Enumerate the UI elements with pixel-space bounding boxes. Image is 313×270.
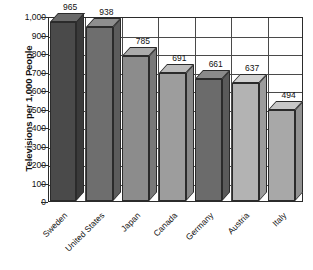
bar-side-face [295,101,303,201]
bar-value-label: 965 [57,3,84,12]
bar-front-face [86,27,113,201]
bar-side-face [222,70,230,201]
bar-front-face [50,22,77,201]
bar-chart: Televisions per 1,000 People 1,000900800… [0,0,313,270]
y-axis-tick-mark [41,128,48,129]
bar-side-face [186,64,194,201]
bar-front-face [159,73,186,201]
y-axis-tick-label: 800 [4,50,46,58]
plot-area [48,17,303,202]
y-axis-tick-label: 200 [4,161,46,169]
y-axis-tick-label: 100 [4,180,46,188]
bar-value-label: 494 [275,91,302,100]
bar-front-face [195,79,222,201]
bar [50,22,77,201]
y-axis-tick-label: 900 [4,32,46,40]
y-axis-tick-mark [41,73,48,74]
bar [268,110,295,201]
y-axis-tick-label: 600 [4,87,46,95]
y-axis-tick-mark [41,202,48,203]
y-axis-tick-mark [41,17,48,18]
y-axis-tick-mark [41,54,48,55]
bar-value-label: 661 [202,60,229,69]
y-axis-tick-mark [41,165,48,166]
bar-value-label: 637 [239,64,266,73]
bar-side-face [259,74,267,201]
bar-front-face [122,56,149,201]
bar-side-face [76,14,84,201]
bar [232,83,259,201]
y-axis-tick-label: 0 [4,198,46,206]
y-axis-tick-mark [41,36,48,37]
y-axis-tick-label: 1,000 [4,13,46,21]
bar [159,73,186,201]
bar-value-label: 938 [93,8,120,17]
bar [195,79,222,201]
y-axis-tick-label: 700 [4,69,46,77]
bar-side-face [113,19,121,201]
y-axis-tick-mark [41,110,48,111]
y-axis-tick-mark [41,147,48,148]
bar-front-face [232,83,259,201]
y-axis-tick-label: 500 [4,106,46,114]
y-axis-tick-label: 400 [4,124,46,132]
y-axis-tick-label: 300 [4,143,46,151]
bar-front-face [268,110,295,201]
y-axis-tick-mark [41,184,48,185]
y-axis-tick-mark [41,91,48,92]
bar [122,56,149,201]
bar [86,27,113,201]
bar-value-label: 785 [129,37,156,46]
bar-side-face [149,47,157,201]
bar-value-label: 691 [166,54,193,63]
